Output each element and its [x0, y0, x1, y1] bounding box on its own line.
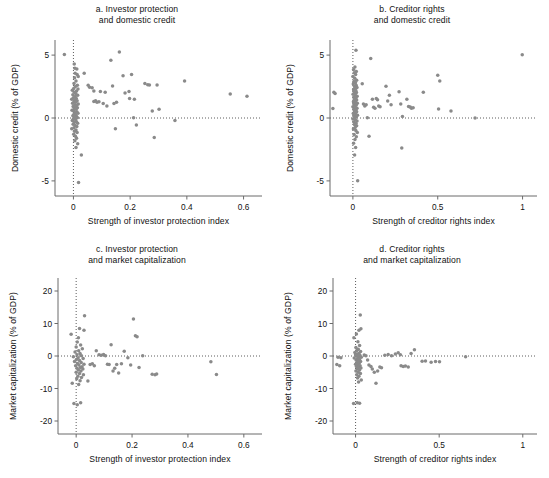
data-point — [141, 354, 145, 358]
data-point — [422, 90, 426, 94]
data-point — [93, 364, 97, 368]
data-point — [411, 106, 415, 110]
data-point — [245, 95, 249, 99]
data-point — [115, 363, 119, 367]
data-point — [520, 53, 524, 57]
data-point — [123, 91, 127, 95]
x-tick-label: 0 — [351, 202, 356, 212]
data-point — [407, 365, 411, 369]
data-point — [413, 348, 417, 352]
data-point — [360, 82, 364, 86]
scatter-points — [63, 50, 249, 184]
y-tick-label: -10 — [315, 384, 327, 394]
x-tick-label: 0.5 — [432, 202, 444, 212]
data-point — [374, 382, 378, 386]
y-tick-label: 5 — [319, 50, 324, 60]
x-axis-label: Strength of investor protection index — [89, 454, 231, 464]
data-point — [111, 84, 115, 88]
data-point — [358, 401, 362, 405]
y-axis-label: Market capitalization (% of GDP) — [283, 292, 293, 420]
data-point — [405, 97, 409, 101]
data-point — [104, 354, 108, 358]
y-axis-label: Domestic credit (% of GDP) — [10, 64, 20, 172]
data-point — [401, 115, 405, 119]
data-point — [133, 97, 137, 101]
data-point — [81, 357, 85, 361]
x-tick-label: 1 — [520, 202, 525, 212]
x-tick-label: 1 — [520, 440, 525, 450]
x-tick-label: 0.6 — [238, 202, 250, 212]
data-point — [72, 355, 76, 359]
data-point — [357, 329, 361, 333]
data-point — [409, 352, 413, 356]
data-point — [155, 372, 159, 376]
data-point — [359, 313, 363, 317]
data-point — [127, 90, 131, 94]
data-point — [364, 103, 368, 107]
data-point — [73, 360, 77, 364]
panel-b-plot: 00.5150-5Strength of creditor rights ind… — [275, 0, 549, 239]
data-point — [90, 86, 94, 90]
data-point — [129, 363, 133, 367]
data-point — [75, 131, 79, 135]
data-point — [353, 138, 357, 142]
data-point — [151, 109, 155, 113]
data-point — [352, 141, 356, 145]
y-tick-label: 0 — [47, 351, 52, 361]
data-point — [209, 360, 213, 364]
data-point — [75, 67, 79, 71]
data-point — [384, 85, 388, 89]
data-point — [434, 360, 438, 364]
data-point — [333, 92, 337, 96]
y-tick-label: 0 — [319, 113, 324, 123]
data-point — [397, 90, 401, 94]
panel-d-plot: 00.5120100-10-20Strength of creditor rig… — [275, 240, 549, 478]
data-point — [120, 362, 124, 366]
data-point — [73, 139, 77, 143]
data-point — [75, 377, 79, 381]
y-tick-label: 10 — [43, 319, 53, 329]
data-point — [389, 103, 393, 107]
data-point — [400, 146, 404, 150]
panel-b: b. Creditor rights and domestic credit 0… — [275, 0, 549, 239]
data-point — [358, 344, 362, 348]
data-point — [77, 181, 81, 185]
y-tick-label: -20 — [40, 416, 52, 426]
data-point — [74, 345, 78, 349]
y-tick-label: 10 — [318, 319, 328, 329]
data-point — [183, 79, 187, 83]
data-point — [473, 116, 477, 120]
y-tick-label: 0 — [322, 351, 327, 361]
y-axis-label: Domestic credit (% of GDP) — [285, 64, 295, 172]
data-point — [92, 89, 96, 93]
data-point — [135, 335, 139, 339]
y-tick-label: -5 — [317, 176, 325, 186]
data-point — [366, 358, 370, 362]
data-point — [153, 136, 157, 140]
data-point — [376, 98, 380, 102]
data-point — [364, 354, 368, 358]
data-point — [107, 363, 111, 367]
data-point — [79, 343, 83, 347]
data-point — [122, 349, 126, 353]
panel-a: a. Investor protection and domestic cred… — [0, 0, 274, 239]
data-point — [438, 79, 442, 83]
data-point — [80, 153, 84, 157]
data-point — [70, 127, 74, 131]
data-point — [437, 107, 441, 111]
data-point — [373, 106, 377, 110]
data-point — [86, 379, 90, 383]
x-tick-label: 0 — [71, 202, 76, 212]
x-tick-label: 0 — [353, 440, 358, 450]
data-point — [355, 332, 359, 336]
data-point — [73, 62, 77, 66]
y-tick-label: 5 — [44, 50, 49, 60]
x-tick-label: 0 — [74, 440, 79, 450]
data-point — [390, 354, 394, 358]
x-tick-label: 0.4 — [182, 440, 194, 450]
data-point — [356, 340, 360, 344]
data-point — [388, 94, 392, 98]
data-point — [339, 356, 343, 360]
data-point — [386, 353, 390, 357]
data-point — [63, 53, 67, 57]
